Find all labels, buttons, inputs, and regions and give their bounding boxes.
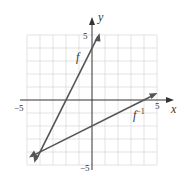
x-max-tick-label: 5 [155, 101, 160, 111]
y-axis-arrow-icon [89, 17, 95, 25]
y-max-tick-label: 5 [83, 31, 88, 41]
f-inverse-label: f−1 [133, 107, 145, 122]
line-f-inverse [32, 95, 154, 156]
f-label: f [76, 50, 81, 64]
y-axis-label: y [97, 10, 104, 24]
x-axis-label: x [170, 102, 177, 116]
x-min-tick-label: −5 [14, 103, 24, 113]
graph-canvas: y x 5 −5 −5 5 f f−1 [0, 0, 187, 183]
line-f [36, 36, 98, 160]
f-inverse-arrow-top-icon [149, 93, 158, 99]
f-arrow-top-icon [95, 33, 101, 42]
f-inverse-label-sup: −1 [136, 107, 145, 116]
y-min-tick-label: −5 [80, 163, 90, 173]
